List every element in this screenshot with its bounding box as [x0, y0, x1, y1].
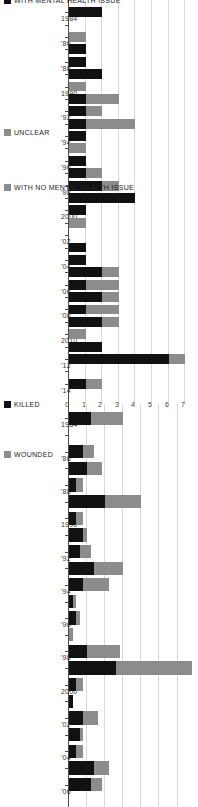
bar-segment [69, 661, 116, 674]
bar-segment [69, 695, 73, 708]
bar-segment [87, 645, 120, 658]
legend-label: WITH MENTAL HEALTH ISSUE [14, 0, 121, 4]
bar-segment [69, 528, 83, 541]
bar-segment [69, 462, 87, 475]
bar-segment [83, 578, 108, 591]
bar-segment [69, 205, 86, 215]
mental-health-chart: 012345671984'86'881990'92'94'96'982000'0… [0, 0, 198, 404]
bar-segment [94, 562, 123, 575]
gridline [122, 404, 123, 807]
legend-label: UNCLEAR [14, 129, 50, 136]
legend-swatch [4, 129, 11, 136]
legend-swatch [4, 0, 11, 4]
bar-segment [69, 267, 102, 277]
bar-segment [69, 292, 102, 302]
bar-segment [69, 711, 83, 724]
bar-segment [76, 512, 83, 525]
bar-segment [69, 32, 86, 42]
bar-segment [69, 106, 86, 116]
bar-segment [69, 329, 86, 339]
bar-segment [69, 445, 83, 458]
legend-swatch [4, 184, 11, 191]
year-tick [65, 25, 69, 26]
casualties-plot-area: 1984'86'881990'92'94'96'982000'02'04'06 [35, 404, 198, 807]
gridline [158, 404, 159, 807]
bar-segment [91, 412, 124, 425]
gridline [140, 404, 141, 807]
bar-segment [86, 106, 103, 116]
bar-segment [69, 44, 86, 54]
bar-segment [69, 761, 94, 774]
bar-segment [69, 131, 86, 141]
bar-segment [86, 280, 119, 290]
bar-segment [69, 168, 86, 178]
bar-segment [69, 354, 169, 364]
bar-segment [83, 711, 97, 724]
gridline [184, 0, 185, 404]
bar-segment [87, 462, 101, 475]
bar-segment [105, 495, 141, 508]
casualties-chart: 1984'86'881990'92'94'96'982000'02'04'06 … [0, 404, 198, 807]
bar-segment [69, 305, 86, 315]
bar-segment [69, 119, 86, 129]
bar-segment [69, 218, 86, 228]
bar-segment [102, 317, 119, 327]
bar-segment [69, 379, 86, 389]
bar-segment [69, 69, 102, 79]
bar-segment [83, 528, 87, 541]
legend-item: UNCLEAR [4, 129, 50, 136]
bar-segment [69, 628, 73, 641]
bar-segment [86, 119, 136, 129]
bar-segment [69, 728, 80, 741]
bar-segment [94, 761, 108, 774]
bar-segment [102, 267, 119, 277]
mental-health-legend: WITH MENTAL HEALTH ISSUEUNCLEARWITH NO M… [0, 0, 33, 404]
casualties-legend: KILLEDWOUNDED [0, 404, 33, 807]
bar-segment [80, 728, 84, 741]
legend-label: KILLED [14, 401, 40, 408]
bar-segment [69, 478, 76, 491]
legend-item: KILLED [4, 401, 40, 408]
gridline [151, 0, 152, 404]
gridline [168, 0, 169, 404]
bar-segment [102, 292, 119, 302]
bar-segment [86, 168, 103, 178]
legend-item: WITH MENTAL HEALTH ISSUE [4, 0, 121, 4]
year-tick [65, 371, 69, 372]
year-tick [65, 235, 69, 236]
bar-segment [69, 512, 76, 525]
figure-stage: 012345671984'86'881990'92'94'96'982000'0… [0, 0, 198, 807]
bar-segment [69, 243, 86, 253]
legend-label: WITH NO MENTAL HEALTH ISSUE [14, 184, 134, 191]
bar-segment [76, 745, 83, 758]
legend-item: WITH NO MENTAL HEALTH ISSUE [4, 184, 134, 191]
bar-segment [69, 342, 102, 352]
bar-segment [169, 354, 186, 364]
bar-segment [76, 478, 83, 491]
bar-segment [69, 645, 87, 658]
bar-segment [69, 7, 102, 17]
bar-segment [83, 445, 94, 458]
bar-segment [73, 595, 77, 608]
gridline [177, 404, 178, 807]
bar-segment [91, 778, 102, 791]
legend-swatch [4, 451, 11, 458]
mental-health-plot-area: 012345671984'86'881990'92'94'96'982000'0… [35, 0, 198, 404]
bar-segment [86, 379, 103, 389]
bar-segment [86, 305, 119, 315]
bar-segment [69, 545, 80, 558]
bar-segment [86, 94, 119, 104]
gridline [104, 404, 105, 807]
bar-segment [69, 412, 91, 425]
year-tick [65, 435, 69, 436]
bar-segment [80, 545, 91, 558]
bar-segment [76, 611, 80, 624]
bar-segment [69, 778, 91, 791]
bar-segment [69, 193, 135, 203]
bar-segment [69, 82, 86, 92]
bar-segment [69, 156, 86, 166]
bar-segment [69, 94, 86, 104]
bar-segment [69, 255, 86, 265]
legend-item: WOUNDED [4, 451, 53, 458]
bar-segment [69, 317, 102, 327]
